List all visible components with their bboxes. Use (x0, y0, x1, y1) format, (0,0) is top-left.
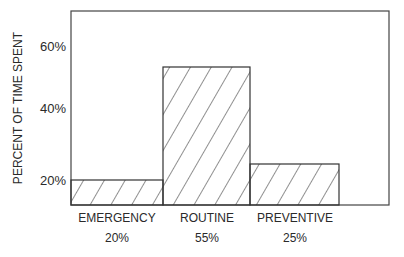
category-routine: ROUTINE (180, 211, 234, 225)
value-labels: 20% 55% 25% (105, 231, 307, 245)
x-axis-categories: EMERGENCY ROUTINE PREVENTIVE (78, 211, 333, 225)
bar-chart: 60% 40% 20% PERCENT OF TIME SPENT EMERGE… (0, 0, 404, 257)
bar-routine (163, 67, 250, 205)
y-axis-ticks: 60% 40% 20% (40, 39, 66, 188)
bar-emergency (71, 180, 163, 205)
y-tick-60: 60% (40, 39, 66, 54)
category-preventive: PREVENTIVE (257, 211, 333, 225)
y-axis-label: PERCENT OF TIME SPENT (11, 31, 25, 184)
value-routine: 55% (195, 231, 219, 245)
value-emergency: 20% (105, 231, 129, 245)
value-preventive: 25% (283, 231, 307, 245)
y-tick-20: 20% (40, 173, 66, 188)
y-tick-40: 40% (40, 101, 66, 116)
bar-preventive (250, 164, 339, 205)
category-emergency: EMERGENCY (78, 211, 155, 225)
bars (71, 67, 339, 205)
